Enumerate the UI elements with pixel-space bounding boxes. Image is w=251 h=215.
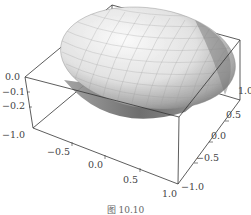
y-tick-label: −1.0 [181, 182, 204, 192]
x-tick-label: 0.5 [123, 175, 138, 185]
z-tick-label: 0.0 [5, 72, 20, 82]
y-tick-label: 0.5 [226, 110, 241, 120]
x-tick-label: 0.0 [88, 160, 103, 170]
y-tick-label: 0.0 [211, 131, 226, 141]
x-tick-label: −0.5 [47, 147, 70, 157]
x-tick-label: 1.0 [162, 189, 177, 199]
paraboloid-surface [54, 0, 242, 120]
y-tick-label: 1.0 [238, 86, 251, 96]
z-tick-label: −1.0 [2, 130, 25, 140]
y-tick-label: −0.5 [196, 153, 219, 163]
z-tick-label: −0.2 [2, 101, 25, 111]
z-tick-label: −0.1 [2, 87, 25, 97]
figure-caption: 图 10.10 [0, 203, 251, 215]
